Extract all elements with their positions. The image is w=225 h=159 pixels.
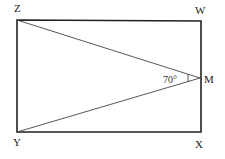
label-m: M [204,73,214,85]
label-x: X [195,138,203,150]
geometry-diagram: Z W X Y M 70° [0,0,225,159]
label-y: Y [13,136,21,148]
segment-zm [17,20,200,78]
angle-label: 70° [163,74,177,85]
label-z: Z [14,2,21,14]
label-w: W [195,4,206,16]
segment-ym [17,78,200,132]
